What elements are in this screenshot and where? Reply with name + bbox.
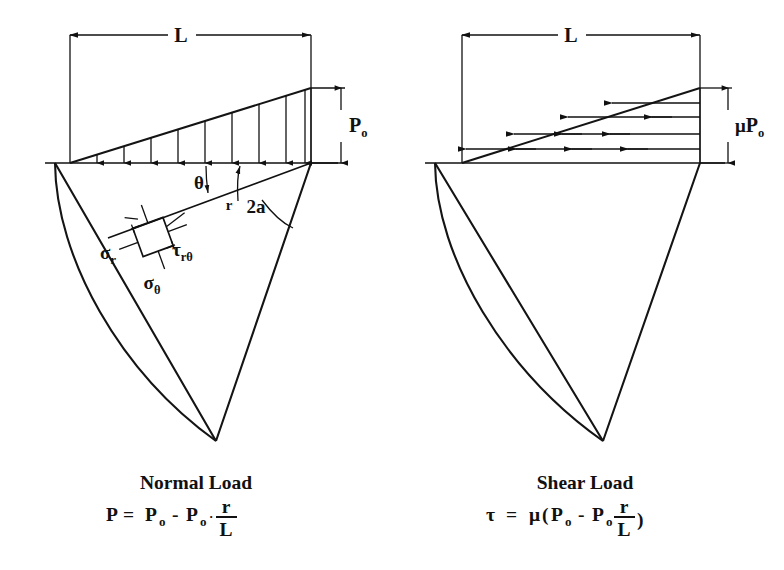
- sigma-r-arrow-left: [119, 242, 138, 249]
- radius-pointer: [238, 166, 240, 201]
- eq-left-term1: P: [145, 504, 157, 525]
- sigma-theta-arrow-bottom: [158, 251, 164, 269]
- eq-left-dot: ·: [209, 509, 213, 524]
- eq-right-lhs: τ: [486, 504, 495, 525]
- stress-element-square: [133, 217, 173, 256]
- caption-title-normal-load: Normal Load: [140, 472, 252, 493]
- pressure-distribution-hypotenuse-left: [70, 88, 311, 163]
- theta-arc: [206, 166, 208, 193]
- panel-shear-load: L μPo Shea: [425, 24, 764, 540]
- sigma-r-arrow-right: [168, 225, 187, 232]
- caption-equation-normal-load: P = P o - P o · r L: [106, 496, 237, 540]
- wedge-body-left: [55, 163, 311, 441]
- shear-distribution-hypotenuse-right: [462, 88, 700, 163]
- eq-right-frac-numerator: r: [620, 496, 629, 517]
- eq-right-mu: μ: [529, 504, 540, 525]
- eq-left-term2-sub: o: [200, 514, 207, 529]
- normal-load-arrows: [97, 90, 305, 163]
- eq-right-open-paren: (: [542, 504, 549, 526]
- eq-left-frac-numerator: r: [222, 496, 231, 517]
- wedge-angle-annotation: 2a: [247, 196, 294, 228]
- eq-left-frac-denominator: L: [219, 519, 232, 540]
- magnitude-label-P0: Po: [349, 114, 367, 140]
- radius-label-r: r: [226, 197, 233, 213]
- stress-element: [108, 192, 201, 281]
- caption-title-shear-load: Shear Load: [537, 472, 634, 493]
- eq-right-term1: P: [551, 504, 563, 525]
- eq-right-term2-sub: o: [606, 514, 613, 529]
- theta-label: θ: [194, 172, 204, 193]
- eq-right-frac-denominator: L: [617, 519, 630, 540]
- sigma-theta-arrow-top: [141, 205, 147, 223]
- stress-label-tau-r-theta: τrθ: [172, 239, 193, 264]
- tau-shear-arrow-upper: [125, 213, 138, 223]
- caption-equation-shear-load: τ = μ ( P o - P o r L ): [486, 496, 644, 540]
- radius-annotation: r: [226, 166, 240, 213]
- dimension-span-left: L: [70, 24, 311, 163]
- dimension-span-right: L: [462, 24, 700, 163]
- eq-left-equals: =: [123, 504, 134, 525]
- angle-theta-annotation: θ: [194, 166, 208, 193]
- wedge-body-right: [435, 163, 700, 441]
- eq-right-term2: P: [592, 504, 604, 525]
- wedge-loading-figure: L Po: [0, 0, 784, 570]
- shear-load-arrows: [466, 103, 700, 149]
- eq-right-term1-sub: o: [565, 514, 572, 529]
- eq-left-term1-sub: o: [159, 514, 166, 529]
- tau-shear-arrow-right: [164, 213, 187, 227]
- wedge-angle-arc: [262, 200, 293, 228]
- eq-left-lhs: P: [106, 504, 118, 525]
- dimension-magnitude-left: Po: [311, 88, 367, 163]
- eq-left-term2: P: [186, 504, 198, 525]
- panel-normal-load: L Po: [45, 24, 367, 540]
- stress-label-sigma-r: σr: [100, 242, 116, 267]
- eq-left-minus: -: [172, 504, 179, 525]
- eq-right-minus: -: [578, 504, 585, 525]
- span-label-L: L: [174, 24, 187, 46]
- dimension-magnitude-right: μPo: [700, 88, 764, 163]
- wedge-edges-right: [435, 163, 700, 441]
- figure-root: L Po: [0, 0, 784, 570]
- eq-right-equals: =: [506, 504, 517, 525]
- stress-label-sigma-theta: σθ: [144, 272, 161, 297]
- span-label-L-right: L: [564, 24, 577, 46]
- magnitude-label-muP0: μPo: [735, 114, 764, 140]
- eq-right-close-paren: ): [637, 509, 644, 531]
- wedge-angle-label: 2a: [247, 196, 267, 217]
